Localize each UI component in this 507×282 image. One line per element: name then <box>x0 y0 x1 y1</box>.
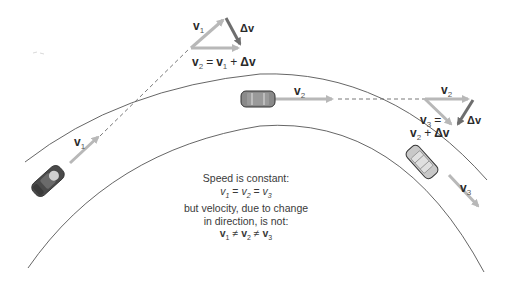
caption-line-3: but velocity, due to change <box>160 202 332 215</box>
svg-text:Δv: Δv <box>240 22 255 34</box>
vector-triangle-top: v1 Δv v2=v1+Δv <box>191 18 256 71</box>
svg-text:v2=v1+Δv: v2=v1+Δv <box>192 55 256 71</box>
svg-text:v1: v1 <box>193 19 205 35</box>
tangent-dashed-line-1 <box>100 48 190 136</box>
caption-line-5: v1 ≠ v2 ≠ v3 <box>160 227 332 245</box>
svg-text:v3: v3 <box>460 181 472 197</box>
caption: Speed is constant: v1 = v2 = v3 but velo… <box>160 172 332 245</box>
vector-triangle-right: v2 Δv v3= v2+Δv <box>410 83 482 142</box>
car-1 <box>29 163 66 199</box>
stray-mark <box>33 52 44 54</box>
caption-line-4: in direction, is not: <box>160 215 332 228</box>
svg-text:v1: v1 <box>74 135 86 151</box>
caption-line-2: v1 = v2 = v3 <box>160 185 332 203</box>
car-2 <box>241 91 275 107</box>
svg-text:Δv: Δv <box>467 114 482 126</box>
caption-line-1: Speed is constant: <box>160 172 332 185</box>
svg-text:v2+Δv: v2+Δv <box>410 126 450 142</box>
svg-text:v2: v2 <box>294 84 306 100</box>
svg-text:v2: v2 <box>441 83 453 99</box>
